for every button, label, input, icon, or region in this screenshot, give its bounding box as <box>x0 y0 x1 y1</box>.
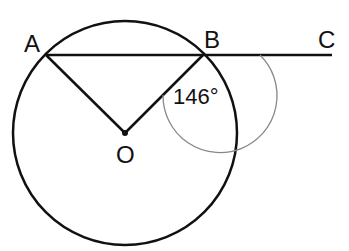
radius-ao <box>46 55 125 133</box>
geometry-diagram: A B C O 146° <box>0 0 349 251</box>
label-c: C <box>318 26 335 53</box>
label-b: B <box>204 26 220 53</box>
angle-label: 146° <box>173 84 219 109</box>
label-o: O <box>116 141 135 168</box>
center-point <box>122 130 128 136</box>
label-a: A <box>24 30 40 57</box>
